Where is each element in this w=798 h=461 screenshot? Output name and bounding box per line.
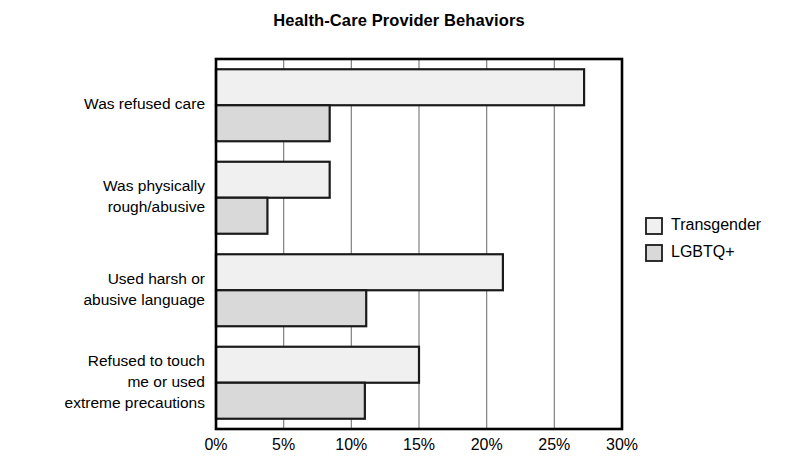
bar-chart: Health-Care Provider Behaviors 0%5%10%15…	[0, 0, 798, 461]
x-tick-label: 10%	[335, 436, 367, 453]
legend-label: Transgender	[671, 216, 762, 233]
legend-swatch-transgender	[646, 218, 662, 234]
bar-lgbtq	[216, 290, 366, 326]
x-tick-label: 25%	[538, 436, 570, 453]
bar-transgender	[216, 69, 584, 105]
chart-title: Health-Care Provider Behaviors	[273, 11, 525, 29]
bar-transgender	[216, 347, 419, 383]
x-tick-label: 15%	[403, 436, 435, 453]
x-tick-label: 5%	[272, 436, 295, 453]
legend-label: LGBTQ+	[671, 243, 735, 260]
bar-lgbtq	[216, 198, 267, 234]
x-tick-label: 0%	[204, 436, 227, 453]
chart-container: Health-Care Provider Behaviors 0%5%10%15…	[0, 0, 798, 461]
x-tick-label: 30%	[606, 436, 638, 453]
x-tick-label: 20%	[471, 436, 503, 453]
bar-lgbtq	[216, 105, 330, 141]
category-label: Was refused care	[84, 95, 205, 112]
bar-transgender	[216, 254, 503, 290]
legend-swatch-lgbtq	[646, 245, 662, 261]
bar-transgender	[216, 162, 330, 198]
bar-lgbtq	[216, 383, 365, 419]
